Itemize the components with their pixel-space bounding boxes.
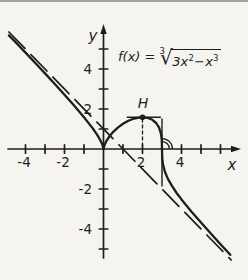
root-index: 3 bbox=[159, 46, 164, 56]
x-tick-label: 2 bbox=[137, 154, 146, 170]
x-axis-label: x bbox=[228, 156, 237, 174]
x-tick-label: 4 bbox=[176, 154, 185, 170]
x-tick-label: -2 bbox=[56, 154, 69, 170]
function-formula: f(x) = 3√3x2−x3 bbox=[118, 47, 221, 69]
x-tick-label: -4 bbox=[17, 154, 30, 170]
y-tick-label: 2 bbox=[83, 101, 92, 117]
radicand-exp-2: 3 bbox=[213, 53, 219, 63]
y-tick-label: -4 bbox=[79, 221, 92, 237]
radicand-term-2: −x bbox=[194, 54, 213, 69]
radical-expression: 3√3x2−x3 bbox=[159, 47, 220, 69]
plot-canvas: -4-224-4-224 bbox=[0, 0, 248, 280]
radicand-term-1: 3x bbox=[172, 54, 188, 69]
y-axis-arrow-icon bbox=[100, 24, 106, 34]
formula-lhs: f(x) = bbox=[118, 47, 155, 67]
y-axis-label: y bbox=[89, 27, 98, 45]
point-H-dot bbox=[140, 114, 146, 120]
y-tick-label: -2 bbox=[79, 181, 92, 197]
y-tick-label: 4 bbox=[83, 61, 92, 77]
radicand: 3x2−x3 bbox=[171, 49, 221, 69]
point-H-label: H bbox=[138, 95, 149, 111]
plot-figure: -4-224-4-224 y x H f(x) = 3√3x2−x3 bbox=[0, 0, 248, 280]
x-axis-arrow-icon bbox=[231, 146, 241, 152]
